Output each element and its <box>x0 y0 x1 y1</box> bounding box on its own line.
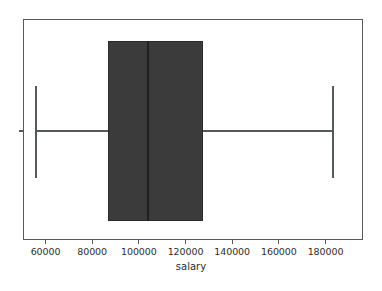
x-tick-mark <box>92 240 93 244</box>
whisker-low-line <box>36 130 108 131</box>
x-tick-mark <box>45 240 46 244</box>
y-tick-mark <box>19 130 23 131</box>
x-tick-mark <box>278 240 279 244</box>
iqr-box <box>108 41 203 221</box>
x-tick-mark <box>232 240 233 244</box>
x-tick-mark <box>138 240 139 244</box>
x-tick-label: 120000 <box>168 246 204 257</box>
x-tick-label: 80000 <box>77 246 107 257</box>
median-line <box>147 41 148 221</box>
plot-surface <box>23 19 363 240</box>
x-tick-label: 180000 <box>308 246 344 257</box>
x-tick-label: 160000 <box>261 246 297 257</box>
x-axis-label: salary <box>0 261 382 273</box>
x-tick-label: 100000 <box>121 246 157 257</box>
figure-canvas: 6000080000100000120000140000160000180000… <box>0 0 382 291</box>
whisker-high-line <box>203 130 333 131</box>
whisker-low-cap <box>35 86 37 178</box>
x-tick-mark <box>325 240 326 244</box>
whisker-high-cap <box>332 86 334 178</box>
x-tick-label: 60000 <box>31 246 61 257</box>
x-tick-mark <box>185 240 186 244</box>
x-tick-label: 140000 <box>214 246 250 257</box>
